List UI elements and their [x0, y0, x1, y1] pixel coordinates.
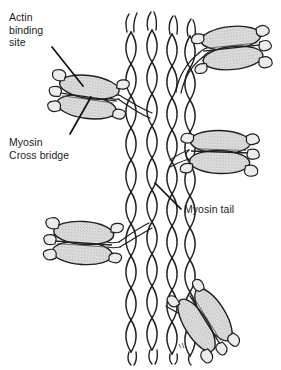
label-myosin-tail: Myosin tail: [184, 203, 234, 216]
myosin-filament-diagram: [0, 0, 281, 370]
label-myosin-cross-bridge: Myosin Cross bridge: [9, 136, 69, 161]
label-actin-binding-site: Actin binding site: [9, 11, 43, 49]
